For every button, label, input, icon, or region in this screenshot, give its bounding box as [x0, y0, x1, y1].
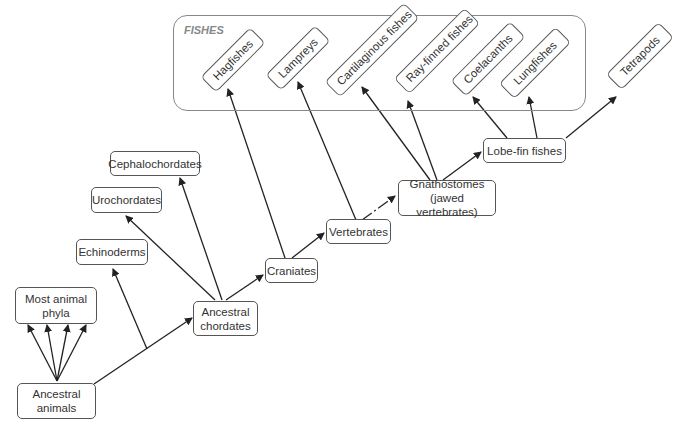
edge-vertebrates — [292, 233, 324, 258]
edge-ray-finned — [408, 101, 437, 180]
edge-cephalochordates — [180, 178, 222, 300]
node-craniates: Craniates — [265, 258, 318, 283]
node-gnathostomes: Gnathostomes (jawed vertebrates) — [398, 180, 496, 216]
edge-gnathostomes — [362, 196, 395, 220]
edge-echinoderms — [113, 269, 147, 349]
edge-hagfishes — [228, 89, 285, 258]
edge-most-phyla-3 — [57, 325, 68, 381]
edge-craniates — [226, 275, 263, 300]
node-echinoderms: Echinoderms — [76, 239, 148, 265]
node-ancestral-chordates: Ancestral chordates — [193, 301, 258, 336]
node-cephalochordates: Cephalochordates — [110, 151, 200, 176]
node-most-animal-phyla: Most animal phyla — [15, 287, 97, 324]
node-urochordates: Urochordates — [91, 187, 162, 213]
node-lobe-fin-fishes: Lobe-fin fishes — [483, 138, 566, 163]
edge-most-phyla-4 — [57, 325, 86, 381]
node-ancestral-animals: Ancestral animals — [17, 383, 96, 419]
fishes-group-label: FISHES — [184, 24, 224, 36]
edge-lobe-fin — [443, 152, 481, 180]
node-vertebrates: Vertebrates — [326, 219, 391, 244]
edge-ancestral-chordates — [94, 318, 192, 384]
